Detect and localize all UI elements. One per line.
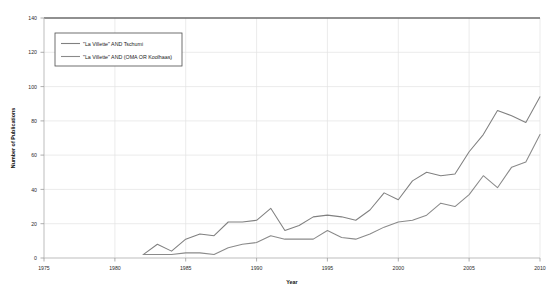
chart-legend: "La Villette" AND Tschumi "La Villette" … <box>55 33 182 66</box>
y-axis-ticks <box>41 18 45 258</box>
legend-label: "La Villette" AND Tschumi <box>83 41 143 47</box>
publications-line-chart: 0 20 40 60 80 100 120 140 1975 1980 1985… <box>0 0 552 302</box>
x-tick-label: 2005 <box>463 265 475 271</box>
x-tick-labels: 1975 1980 1985 1990 1995 2000 2005 2010 <box>38 265 546 271</box>
x-tick-label: 1975 <box>38 265 50 271</box>
y-tick-label: 80 <box>31 118 37 124</box>
y-tick-label: 40 <box>31 187 37 193</box>
x-tick-label: 1990 <box>251 265 263 271</box>
x-axis-title: Year <box>286 279 298 285</box>
legend-label: "La Villette" AND (OMA OR Koolhaas) <box>83 54 172 60</box>
x-tick-label: 2000 <box>393 265 405 271</box>
x-tick-label: 1995 <box>322 265 334 271</box>
y-axis-title: Number of Publications <box>10 108 16 169</box>
chart-canvas: 0 20 40 60 80 100 120 140 1975 1980 1985… <box>0 0 552 302</box>
y-tick-label: 100 <box>28 84 37 90</box>
x-axis-ticks <box>44 258 540 262</box>
legend-box <box>55 33 182 66</box>
y-tick-label: 20 <box>31 221 37 227</box>
y-tick-label: 140 <box>28 15 37 21</box>
y-tick-label: 60 <box>31 152 37 158</box>
x-tick-label: 1980 <box>109 265 121 271</box>
y-tick-label: 0 <box>34 255 37 261</box>
x-tick-label: 2010 <box>534 265 546 271</box>
y-tick-labels: 0 20 40 60 80 100 120 140 <box>28 15 37 261</box>
y-tick-label: 120 <box>28 49 37 55</box>
x-tick-label: 1985 <box>180 265 192 271</box>
